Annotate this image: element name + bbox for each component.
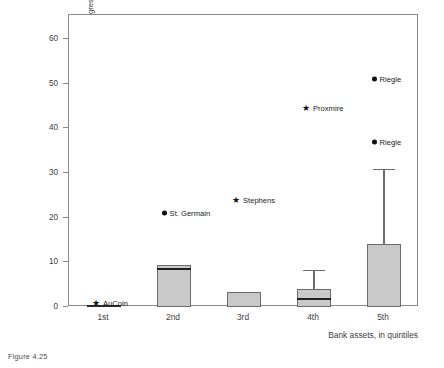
star-marker-icon: ★ [232, 195, 240, 204]
data-point-st-germain: St. Germain [162, 209, 210, 218]
y-tick-mark [63, 306, 68, 307]
data-point-label: Stephens [243, 195, 275, 204]
x-tick-label-3rd: 3rd [220, 312, 266, 322]
median-line-4th [297, 298, 331, 300]
y-tick-label: 50 [36, 78, 58, 87]
whisker-upper [313, 270, 314, 289]
x-tick-label-1st: 1st [80, 312, 126, 322]
data-point-label: Riegle [380, 75, 402, 84]
y-tick-label: 60 [36, 34, 58, 43]
data-point-stephens: ★Stephens [232, 195, 275, 204]
box-3rd [227, 292, 261, 307]
x-axis-title: Bank assets, in quintiles [328, 330, 418, 340]
y-tick-label: 10 [36, 257, 58, 266]
figure-container: Independence of the Fed/relations betwee… [0, 0, 444, 368]
data-point-proxmire: ★Proxmire [302, 104, 343, 113]
data-point-riegle: Riegle [372, 75, 401, 84]
star-marker-icon: ★ [302, 104, 310, 113]
x-tick-label-4th: 4th [290, 312, 336, 322]
y-tick-label: 40 [36, 123, 58, 132]
x-tick-label-2nd: 2nd [150, 312, 196, 322]
box-2nd [157, 265, 191, 307]
y-tick-label: 0 [36, 302, 58, 311]
plot-area: ★AuCoinSt. Germain★Stephens★ProxmireRieg… [68, 14, 418, 306]
median-line-2nd [157, 268, 191, 270]
y-tick-label: 30 [36, 168, 58, 177]
data-point-label: AuCoin [103, 298, 128, 307]
whisker-cap-upper [303, 270, 325, 271]
data-point-riegle: Riegle [372, 137, 401, 146]
dot-marker-icon [372, 77, 377, 82]
data-point-aucoin: ★AuCoin [92, 298, 128, 307]
x-tick-label-5th: 5th [360, 312, 406, 322]
data-point-label: Proxmire [313, 104, 343, 113]
dot-marker-icon [162, 211, 167, 216]
dot-marker-icon [372, 139, 377, 144]
data-point-label: St. Germain [170, 209, 211, 218]
whisker-upper [383, 169, 384, 245]
box-5th [367, 244, 401, 307]
data-point-label: Riegle [380, 137, 402, 146]
y-tick-label: 20 [36, 212, 58, 221]
figure-caption: Figure 4.25 [8, 352, 48, 361]
star-marker-icon: ★ [92, 298, 100, 307]
whisker-cap-upper [373, 169, 395, 170]
